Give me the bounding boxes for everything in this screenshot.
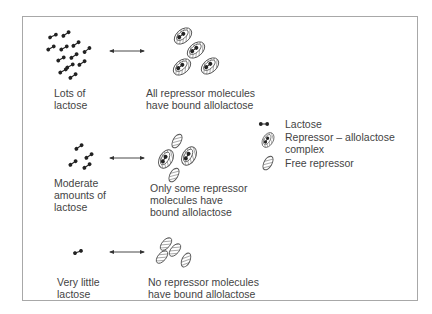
repressor-label-all: All repressor molecules have bound allol… [146, 87, 255, 111]
repressor-complex-group-all [170, 25, 222, 79]
lactose-label-little: Very little lactose [57, 276, 100, 300]
lactose-cluster-little [73, 248, 84, 255]
legend-lactose-icon [259, 122, 269, 126]
lactose-label-lots: Lots of lactose [54, 87, 87, 111]
legend-lactose-label: Lactose [285, 118, 322, 130]
repressor-label-some: Only some repressor molecules have bound… [150, 182, 247, 218]
repressor-mixed-group [155, 133, 199, 184]
equilibrium-arrow-icon [109, 49, 145, 53]
lactose-cluster-lots [46, 30, 92, 81]
equilibrium-arrow-icon [109, 250, 145, 254]
equilibrium-arrow-icon [109, 156, 145, 160]
lactose-cluster-moderate [68, 143, 95, 171]
legend-complex-label: Repressor – allolactose complex [285, 131, 395, 155]
free-repressor-group [154, 236, 193, 269]
repressor-label-none: No repressor molecules have bound allola… [148, 276, 259, 300]
lactose-label-moderate: Moderate amounts of lactose [54, 177, 106, 213]
legend-free-repressor-icon [261, 155, 275, 172]
diagram-artwork [0, 0, 432, 314]
legend-free-repressor-label: Free repressor [285, 157, 354, 169]
legend-complex-icon [259, 130, 276, 149]
